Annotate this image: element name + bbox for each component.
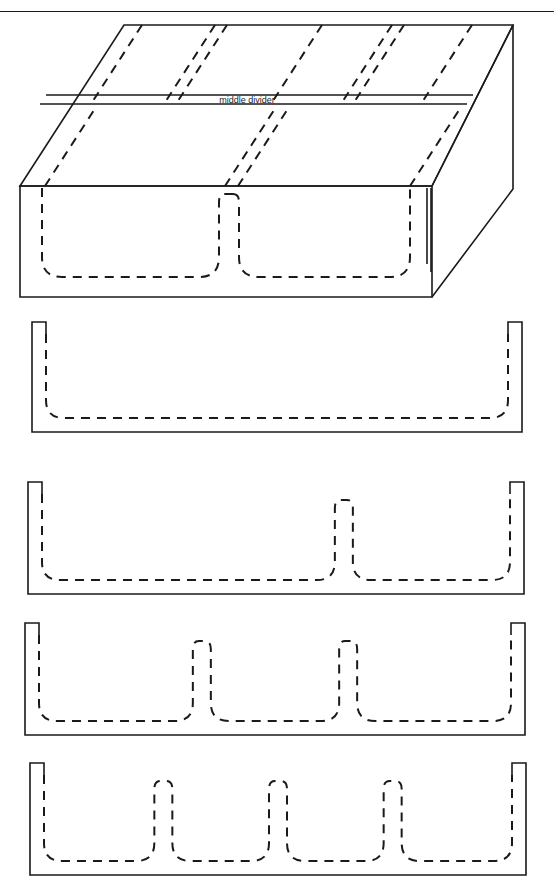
section-rim-left-1 bbox=[28, 482, 42, 494]
two-compartment-profile bbox=[28, 482, 524, 594]
cross-sections-group bbox=[0, 0, 554, 891]
section-rim-right-1 bbox=[510, 482, 524, 494]
section-rim-right-2 bbox=[511, 623, 525, 635]
section-rim-left-3 bbox=[30, 763, 44, 775]
section-cavity-profile-0 bbox=[46, 334, 508, 418]
section-outer-wall-3 bbox=[30, 775, 526, 875]
section-cavity-profile-1 bbox=[42, 494, 510, 580]
section-rim-right-0 bbox=[508, 322, 522, 334]
three-compartment-profile bbox=[25, 623, 525, 735]
section-cavity-profile-3 bbox=[44, 775, 512, 861]
cross-sections-svg bbox=[0, 0, 554, 891]
section-rim-left-0 bbox=[32, 322, 46, 334]
four-compartment-profile bbox=[30, 763, 526, 875]
drawing-sheet: middle divider bbox=[0, 0, 554, 891]
section-cavity-profile-2 bbox=[39, 635, 511, 721]
section-rim-left-2 bbox=[25, 623, 39, 635]
one-compartment-profile bbox=[32, 322, 522, 432]
section-rim-right-3 bbox=[512, 763, 526, 775]
